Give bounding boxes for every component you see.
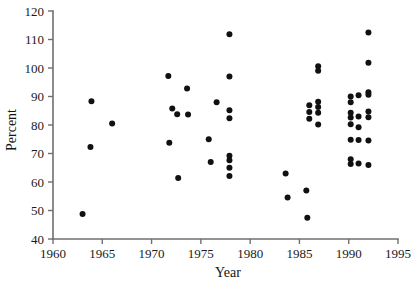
y-tick-label: 90 <box>31 89 44 104</box>
data-point <box>285 194 291 200</box>
data-point <box>348 94 354 100</box>
data-point <box>365 137 371 143</box>
data-point <box>315 110 321 116</box>
y-tick-label: 60 <box>31 175 44 190</box>
data-point <box>356 92 362 98</box>
data-point <box>356 113 362 119</box>
x-tick-label: 1995 <box>385 246 411 261</box>
scatter-plot-figure: 405060708090100110120 196019651970197519… <box>0 0 420 289</box>
y-tick-label: 70 <box>31 146 44 161</box>
data-point <box>208 159 214 165</box>
y-tick-label: 80 <box>31 118 44 133</box>
data-point <box>365 92 371 98</box>
data-point <box>365 60 371 66</box>
data-point <box>226 107 232 113</box>
x-tick-label: 1990 <box>336 246 362 261</box>
data-point <box>348 137 354 143</box>
y-axis-title: Percent <box>4 109 19 151</box>
x-tick-label: 1980 <box>237 246 263 261</box>
data-point <box>174 111 180 117</box>
data-point <box>283 170 289 176</box>
plot-canvas: 405060708090100110120 196019651970197519… <box>0 0 420 289</box>
data-point <box>87 144 93 150</box>
x-tick-label: 1985 <box>286 246 312 261</box>
data-point <box>226 157 232 163</box>
y-tick-label: 120 <box>25 4 45 19</box>
data-point <box>214 99 220 105</box>
data-point <box>226 115 232 121</box>
data-point <box>303 188 309 194</box>
data-point <box>356 124 362 130</box>
data-point <box>226 74 232 80</box>
data-point <box>226 173 232 179</box>
x-tick-label: 1965 <box>89 246 115 261</box>
x-tick-label: 1960 <box>40 246 66 261</box>
data-point <box>306 102 312 108</box>
data-point <box>304 215 310 221</box>
data-point <box>306 109 312 115</box>
data-point <box>348 115 354 121</box>
data-point <box>348 121 354 127</box>
data-point <box>315 99 321 105</box>
data-point <box>306 116 312 122</box>
x-tick-label: 1970 <box>139 246 165 261</box>
data-point <box>169 105 175 111</box>
x-axis-title: Year <box>215 265 241 280</box>
data-point <box>165 73 171 79</box>
data-point <box>315 121 321 127</box>
data-point <box>166 140 172 146</box>
data-point <box>356 160 362 166</box>
data-point <box>365 109 371 115</box>
data-point <box>356 137 362 143</box>
y-tick-label: 100 <box>25 61 45 76</box>
data-point <box>365 114 371 120</box>
data-point <box>315 104 321 110</box>
data-point <box>185 111 191 117</box>
data-point <box>88 98 94 104</box>
data-point <box>348 99 354 105</box>
data-point <box>206 136 212 142</box>
data-point <box>109 121 115 127</box>
x-tick-label: 1975 <box>188 246 214 261</box>
data-point <box>175 175 181 181</box>
y-tick-label: 110 <box>25 32 44 47</box>
data-point <box>365 162 371 168</box>
data-point <box>315 68 321 74</box>
data-point <box>226 165 232 171</box>
data-point <box>365 29 371 35</box>
data-point <box>184 86 190 92</box>
data-point <box>226 31 232 37</box>
data-point <box>80 211 86 217</box>
data-point <box>348 161 354 167</box>
y-tick-label: 40 <box>31 232 44 247</box>
y-tick-label: 50 <box>31 203 44 218</box>
